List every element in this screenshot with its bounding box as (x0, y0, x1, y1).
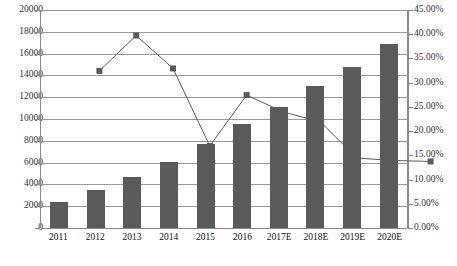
x-axis-tick-label: 2012 (77, 232, 114, 243)
line-marker[interactable] (133, 33, 139, 39)
x-axis-tick-label: 2013 (114, 232, 151, 243)
line-marker[interactable] (207, 143, 213, 149)
line-marker[interactable] (428, 158, 434, 164)
line-marker[interactable] (244, 92, 250, 98)
x-axis-tick-label: 2016 (224, 232, 261, 243)
line-path (99, 36, 430, 162)
x-axis-tick-label: 2014 (150, 232, 187, 243)
line-marker[interactable] (391, 157, 397, 163)
plot-area (40, 10, 408, 228)
line-marker[interactable] (96, 68, 102, 74)
chart-container: 0200040006000800010000120001400016000180… (0, 0, 457, 266)
line-marker[interactable] (280, 109, 286, 115)
x-axis-labels: 2011201220132014201520162017E2018E2019E2… (40, 232, 408, 243)
left-axis-tick (35, 228, 40, 229)
x-axis-tick-label: 2017E (261, 232, 298, 243)
right-axis-tick-label: 45.00% (414, 5, 443, 15)
x-axis-tick-label: 2020E (371, 232, 408, 243)
bar-slot (41, 10, 78, 228)
line-marker[interactable] (170, 65, 176, 71)
line-marker[interactable] (354, 155, 360, 161)
x-axis-tick-label: 2011 (40, 232, 77, 243)
line-series (81, 20, 449, 238)
x-axis-tick-label: 2015 (187, 232, 224, 243)
bar[interactable] (50, 202, 68, 228)
x-axis-tick-label: 2019E (334, 232, 371, 243)
line-marker[interactable] (317, 119, 323, 125)
x-axis-tick-label: 2018E (298, 232, 335, 243)
